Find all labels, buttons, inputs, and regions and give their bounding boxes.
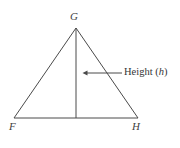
geometry-figure: G F H Height (h) bbox=[0, 0, 180, 148]
left-arrowhead-icon bbox=[83, 71, 88, 76]
height-annotation-label: Height (h) bbox=[124, 66, 167, 78]
vertex-label-h: H bbox=[132, 121, 140, 132]
height-annotation-prefix: Height ( bbox=[124, 66, 159, 77]
height-annotation-suffix: ) bbox=[164, 66, 168, 77]
vertex-label-f: F bbox=[9, 121, 16, 132]
vertex-label-g: G bbox=[70, 11, 78, 22]
